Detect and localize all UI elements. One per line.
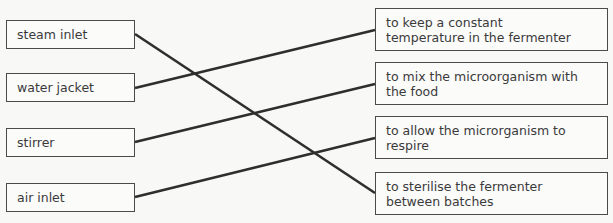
right-item-mix-microorganism[interactable]: to mix the microorganism with the food bbox=[375, 62, 608, 105]
left-item-stirrer[interactable]: stirrer bbox=[6, 128, 135, 157]
left-item-label: water jacket bbox=[17, 80, 94, 95]
left-item-water-jacket[interactable]: water jacket bbox=[6, 73, 135, 102]
right-item-label: to allow the microrganism to respire bbox=[386, 123, 566, 153]
connector-air-inlet bbox=[135, 138, 375, 197]
left-item-label: air inlet bbox=[17, 190, 65, 205]
left-item-air-inlet[interactable]: air inlet bbox=[6, 183, 135, 212]
right-item-label: to mix the microorganism with the food bbox=[386, 69, 578, 99]
right-item-sterilise-fermenter[interactable]: to sterilise the fermenter between batch… bbox=[375, 172, 608, 215]
connector-stirrer bbox=[135, 84, 375, 142]
left-item-label: stirrer bbox=[17, 135, 55, 150]
left-item-label: steam inlet bbox=[17, 27, 87, 42]
right-item-allow-respire[interactable]: to allow the microrganism to respire bbox=[375, 116, 608, 159]
right-item-label: to keep a constant temperature in the fe… bbox=[386, 15, 571, 45]
left-item-steam-inlet[interactable]: steam inlet bbox=[6, 20, 135, 49]
right-item-label: to sterilise the fermenter between batch… bbox=[386, 179, 542, 209]
matching-diagram: ` ´ steam inlet water jacket stirrer air… bbox=[0, 0, 613, 223]
right-item-constant-temperature[interactable]: to keep a constant temperature in the fe… bbox=[375, 8, 608, 51]
